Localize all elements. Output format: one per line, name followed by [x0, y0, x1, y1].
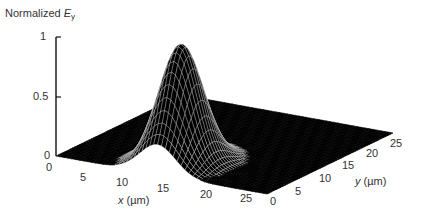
z-tick-0: 0	[44, 150, 50, 161]
x-tick-15: 15	[157, 183, 169, 194]
y-tick-10: 10	[319, 173, 331, 184]
y-tick-25: 25	[390, 138, 402, 149]
x-tick-5: 5	[80, 172, 86, 183]
x-axis-title: x (µm)	[118, 195, 149, 206]
y-tick-15: 15	[342, 160, 354, 171]
gaussian-surface	[56, 44, 393, 194]
y-tick-20: 20	[366, 148, 378, 159]
y-axis-title: y (µm)	[355, 176, 386, 187]
x-tick-10: 10	[116, 177, 128, 188]
chart-title: Normalized Ey	[5, 8, 75, 22]
x-tick-20: 20	[200, 189, 212, 200]
z-tick-1: 1	[40, 31, 46, 42]
z-tick-0.5: 0.5	[33, 91, 48, 102]
y-tick-0: 0	[270, 196, 276, 207]
y-tick-5: 5	[295, 186, 301, 197]
axes	[56, 37, 61, 156]
x-tick-0: 0	[46, 162, 52, 173]
x-tick-25: 25	[240, 193, 252, 204]
